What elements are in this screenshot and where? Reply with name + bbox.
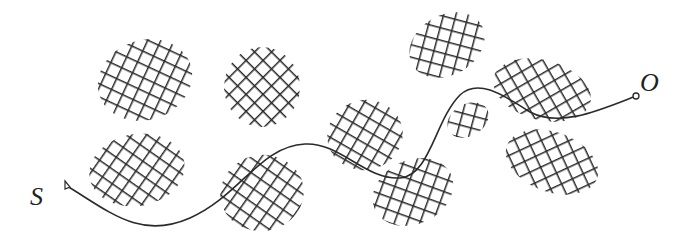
obstacle-o9	[486, 48, 598, 132]
obstacle-o3	[83, 126, 190, 214]
goal-marker-icon	[633, 93, 639, 99]
goal-label: O	[640, 70, 659, 96]
diagram-canvas	[0, 0, 684, 240]
obstacle-o2	[224, 47, 300, 127]
obstacle-o8	[441, 95, 495, 145]
obstacle-o1	[86, 26, 204, 134]
start-label: S	[30, 184, 43, 210]
obstacle-o6	[397, 0, 496, 91]
obstacle-group	[83, 0, 607, 239]
path-planning-diagram: S O	[0, 0, 684, 240]
obstacle-o10	[497, 117, 608, 206]
start-marker-icon	[65, 181, 70, 189]
